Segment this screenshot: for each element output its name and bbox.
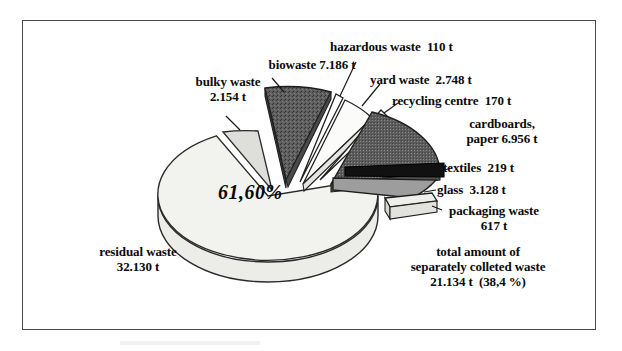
label-recycling-centre: recycling centre 170 t — [392, 93, 587, 108]
label-textiles: textiles 219 t — [443, 160, 583, 175]
center-percent-label: 61,60% — [218, 181, 283, 204]
label-residual-waste: residual waste 32.130 t — [38, 244, 238, 274]
label-glass: glass 3.128 t — [437, 182, 577, 197]
label-biowaste: biowaste 7.186 t — [246, 57, 378, 72]
label-bulky-waste: bulky waste 2.154 t — [168, 74, 288, 104]
label-packaging-waste: packaging waste 617 t — [430, 203, 558, 233]
scan-artifact — [120, 341, 260, 345]
label-yard-waste: yard waste 2.748 t — [370, 72, 540, 87]
label-total-separately-collected: total amount of separately colleted wast… — [358, 244, 598, 289]
label-cardboards-paper: cardboards, paper 6.956 t — [432, 116, 572, 146]
label-hazardous-waste: hazardous waste 110 t — [330, 39, 520, 54]
